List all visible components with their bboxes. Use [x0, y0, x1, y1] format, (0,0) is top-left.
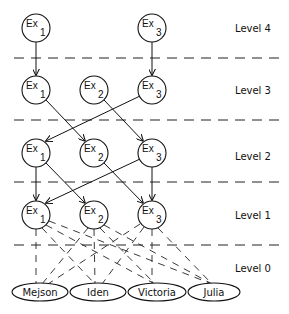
svg-text:Ex: Ex [84, 205, 96, 216]
svg-text:Julia: Julia [203, 287, 225, 298]
svg-text:2: 2 [98, 89, 104, 100]
solid-edges [36, 42, 152, 203]
leaf-mejson: Mejson [12, 283, 68, 301]
level-2-nodes: Ex 1 Ex 2 Ex 3 [22, 139, 166, 167]
svg-text:2: 2 [98, 214, 104, 225]
edge-l2ex1-l1ex2 [46, 163, 85, 203]
svg-text:Iden: Iden [87, 287, 109, 298]
svg-text:2: 2 [98, 152, 104, 163]
svg-text:Ex: Ex [142, 205, 154, 216]
leaf-victoria: Victoria [128, 283, 186, 301]
node-l3-ex1: Ex 1 [22, 76, 50, 104]
level-3-nodes: Ex 1 Ex 2 Ex 3 [22, 76, 166, 104]
node-l3-ex3: Ex 3 [138, 76, 166, 104]
level-1-label: Level 1 [235, 210, 271, 221]
svg-text:Ex: Ex [26, 205, 38, 216]
svg-text:3: 3 [156, 152, 162, 163]
svg-text:Ex: Ex [26, 80, 38, 91]
svg-text:Ex: Ex [84, 80, 96, 91]
node-l2-ex1: Ex 1 [22, 139, 50, 167]
svg-text:3: 3 [156, 27, 162, 38]
level-4-label: Level 4 [235, 23, 271, 34]
node-l2-ex2: Ex 2 [80, 139, 108, 167]
level-labels: Level 4 Level 3 Level 2 Level 1 Level 0 [235, 23, 271, 274]
svg-text:3: 3 [156, 89, 162, 100]
svg-text:3: 3 [156, 214, 162, 225]
leaf-iden: Iden [70, 283, 126, 301]
svg-text:1: 1 [40, 214, 46, 225]
svg-text:Ex: Ex [84, 143, 96, 154]
svg-text:Mejson: Mejson [22, 287, 57, 298]
svg-text:Ex: Ex [142, 143, 154, 154]
node-l2-ex3: Ex 3 [138, 139, 166, 167]
level-0-leaves: Mejson Iden Victoria Julia [12, 283, 240, 301]
leaf-julia: Julia [188, 283, 240, 301]
svg-text:1: 1 [40, 152, 46, 163]
node-l1-ex2: Ex 2 [80, 201, 108, 229]
svg-text:1: 1 [40, 89, 46, 100]
edge-l2ex2-l1ex3 [104, 163, 143, 203]
svg-text:Victoria: Victoria [138, 287, 176, 298]
level-2-label: Level 2 [235, 151, 271, 162]
svg-text:Ex: Ex [26, 143, 38, 154]
level-4-nodes: Ex 1 Ex 3 [22, 14, 166, 42]
node-l4-ex3: Ex 3 [138, 14, 166, 42]
node-l1-ex3: Ex 3 [138, 201, 166, 229]
svg-text:Ex: Ex [142, 80, 154, 91]
node-l1-ex1: Ex 1 [22, 201, 50, 229]
node-l4-ex1: Ex 1 [22, 14, 50, 42]
level-0-label: Level 0 [235, 263, 271, 274]
level-3-label: Level 3 [235, 85, 271, 96]
svg-text:Ex: Ex [26, 18, 38, 29]
expert-hierarchy-diagram: Ex 1 Ex 3 Ex 1 Ex 2 Ex 3 Ex 1 [0, 0, 289, 314]
dashed-edges [36, 221, 212, 284]
svg-text:Ex: Ex [142, 18, 154, 29]
node-l3-ex2: Ex 2 [80, 76, 108, 104]
level-1-nodes: Ex 1 Ex 2 Ex 3 [22, 201, 166, 229]
svg-text:1: 1 [40, 27, 46, 38]
